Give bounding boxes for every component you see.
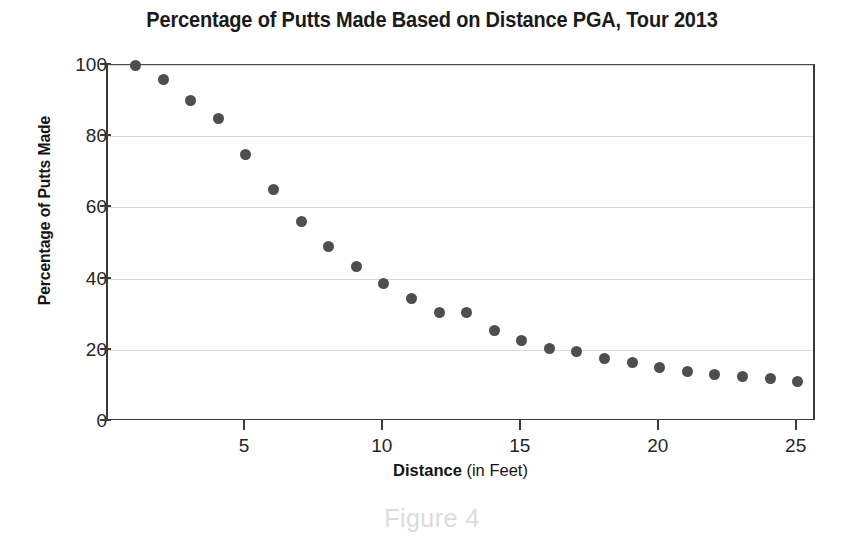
x-axis-tick-label: 15	[509, 436, 530, 455]
x-axis-tick-label: 10	[371, 436, 392, 455]
figure-container: Percentage of Putts Made Based on Distan…	[0, 0, 864, 549]
x-axis-tick-mark	[381, 419, 383, 430]
x-axis-tick-mark	[243, 419, 245, 430]
x-axis-tick-label: 25	[785, 436, 806, 455]
x-axis-title-bold: Distance	[393, 461, 462, 479]
x-axis-tick-label: 20	[647, 436, 668, 455]
figure-caption: Figure 4	[0, 504, 864, 533]
x-axis-tick-mark	[657, 419, 659, 430]
x-axis-tick-label: 5	[239, 436, 250, 455]
x-axis-title: Distance (in Feet)	[106, 461, 815, 480]
x-axis-tick-mark	[519, 419, 521, 430]
x-axis-title-rest: (in Feet)	[462, 461, 528, 479]
x-axis-tick-mark	[795, 419, 797, 430]
